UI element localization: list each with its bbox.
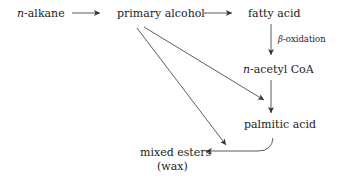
node-mixed-esters-wax: (wax) <box>157 160 188 173</box>
arrow-palmitic-to-mixed-esters <box>206 138 273 151</box>
metabolic-pathway-diagram: n-alkane primary alcohol fatty acid n-ac… <box>0 0 337 177</box>
diagram-canvas: n-alkane primary alcohol fatty acid n-ac… <box>0 0 337 177</box>
beta-oxidation-label: β-oxidation <box>277 34 326 44</box>
arrow-alcohol-to-mixed-esters <box>137 28 226 145</box>
node-primary-alcohol: primary alcohol <box>117 7 205 20</box>
node-palmitic-acid: palmitic acid <box>244 118 316 131</box>
node-n-acetyl-coa: n-acetyl CoA <box>243 63 315 76</box>
node-fatty-acid: fatty acid <box>248 7 300 20</box>
node-n-alkane: n-alkane <box>17 7 65 20</box>
node-mixed-esters: mixed esters <box>140 146 212 159</box>
